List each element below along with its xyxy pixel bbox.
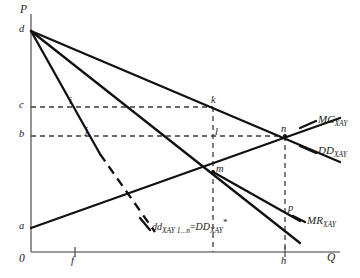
- mr-curve-label: MRXAY: [307, 215, 336, 226]
- dd-label-leader: [300, 146, 316, 153]
- dd-curve: [31, 31, 340, 162]
- y-tick-label-c: c: [19, 100, 24, 111]
- dd-curve-label-main: DD: [318, 144, 334, 156]
- x-axis-label: Q: [327, 252, 335, 264]
- origin-label: 0: [19, 253, 25, 265]
- mr-steep-dashed: [100, 154, 155, 232]
- point-m-marker: [211, 170, 215, 174]
- y-tick-label-d: d: [19, 24, 24, 35]
- dd-annotation-rhs-sub: XAY: [210, 226, 223, 235]
- mc-curve-label-sub: XAY: [335, 119, 348, 128]
- dd-equals-annotation: ddXAY 1...n=DDXAY*: [152, 222, 227, 232]
- mc-curve: [31, 118, 340, 228]
- mr-curve-label-main: MR: [307, 214, 323, 226]
- dd-annotation-rhs-main: DD: [196, 221, 210, 232]
- point-label-l: l: [215, 127, 218, 138]
- mr-curve-label-sub: XAY: [323, 220, 336, 229]
- mc-curve-label: MCXAY: [318, 114, 347, 125]
- dd-small-curve: [31, 31, 300, 243]
- dd-annotation-lhs-main: dd: [152, 221, 162, 232]
- y-axis-label: P: [20, 4, 27, 16]
- dd-annotation-lhs-sub: XAY 1...n: [162, 226, 190, 235]
- dd-annotation-rhs-sup: *: [223, 217, 228, 227]
- point-label-m: m: [216, 164, 224, 175]
- x-tick-label-f: f: [71, 256, 74, 267]
- point-n-marker: [283, 134, 287, 138]
- point-label-k: k: [211, 95, 216, 106]
- diagram-canvas: [0, 0, 360, 278]
- y-tick-label-a: a: [19, 221, 24, 232]
- point-label-i: i: [69, 96, 72, 107]
- point-label-j: j: [85, 126, 88, 137]
- mc-curve-label-main: MC: [318, 113, 335, 125]
- dd-curve-label: DDXAY: [318, 145, 347, 156]
- y-tick-label-b: b: [19, 129, 24, 140]
- dd-curve-label-sub: XAY: [334, 150, 347, 159]
- point-label-p: p: [288, 203, 293, 214]
- economics-diagram: P Q 0 d c b a f h i j k l m n p MCXAY DD…: [0, 0, 360, 278]
- mr-branch: [213, 172, 300, 221]
- point-label-n: n: [281, 124, 286, 135]
- x-tick-label-h: h: [281, 256, 286, 267]
